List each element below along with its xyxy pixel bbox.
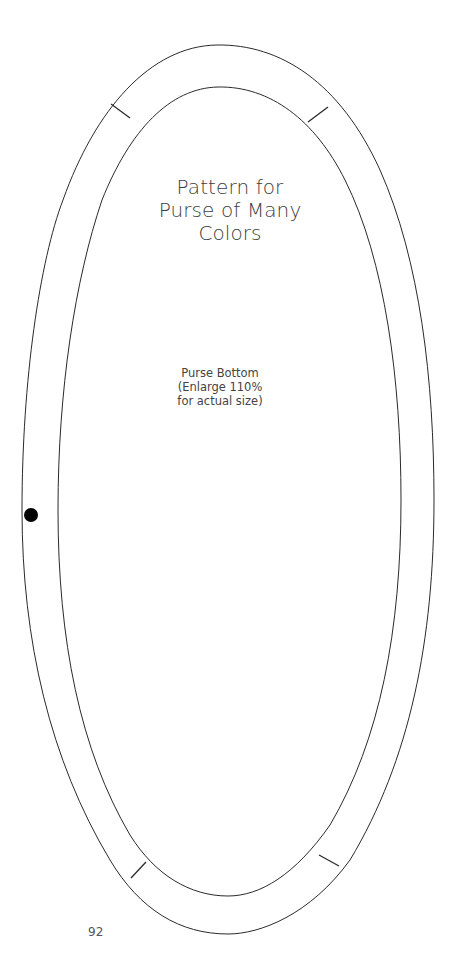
tick-top-left bbox=[111, 104, 130, 118]
tick-bottom-left bbox=[131, 862, 146, 878]
title-line-2: Purse of Many bbox=[130, 199, 330, 222]
label-line-2: (Enlarge 110% bbox=[140, 380, 300, 394]
placement-dot-icon bbox=[24, 508, 38, 522]
purse-bottom-pattern bbox=[0, 0, 459, 955]
tick-bottom-right bbox=[319, 855, 339, 866]
title-line-1: Pattern for bbox=[130, 176, 330, 199]
tick-top-right bbox=[308, 107, 328, 122]
label-line-3: for actual size) bbox=[140, 394, 300, 408]
piece-label: Purse Bottom (Enlarge 110% for actual si… bbox=[140, 366, 300, 408]
page-number: 92 bbox=[88, 925, 103, 939]
title-line-3: Colors bbox=[130, 222, 330, 245]
label-line-1: Purse Bottom bbox=[140, 366, 300, 380]
pattern-title: Pattern for Purse of Many Colors bbox=[130, 176, 330, 245]
